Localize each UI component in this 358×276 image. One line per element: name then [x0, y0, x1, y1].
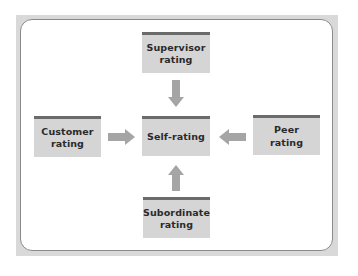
peer-rating-label: Peer rating [270, 124, 303, 149]
arrow-down-icon [168, 80, 184, 107]
arrow-right-icon [108, 129, 135, 145]
customer-rating-box: Customer rating [34, 116, 101, 157]
self-rating-box: Self-rating [142, 116, 210, 156]
subordinate-rating-box: Subordinate rating [143, 197, 210, 238]
supervisor-rating-label: Supervisor rating [147, 42, 206, 67]
peer-rating-box: Peer rating [253, 115, 320, 155]
supervisor-rating-box: Supervisor rating [142, 32, 210, 73]
self-rating-label: Self-rating [147, 131, 205, 144]
customer-rating-label: Customer rating [41, 126, 93, 151]
subordinate-rating-label: Subordinate rating [143, 207, 210, 232]
arrow-left-icon [219, 129, 246, 145]
arrow-up-icon [168, 165, 184, 191]
